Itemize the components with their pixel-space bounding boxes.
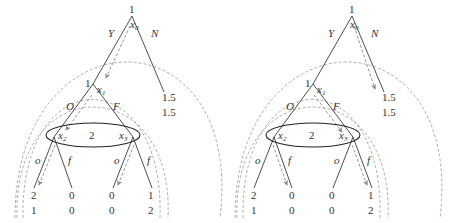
- leaf-4-p1: 1: [368, 189, 374, 201]
- action-x2-f-label: f: [288, 154, 293, 166]
- leaf-1-p2: 1: [31, 204, 37, 216]
- node-x1-label: x1: [96, 83, 105, 97]
- node-x2-label: x2: [277, 129, 287, 143]
- action-x3-o-label: o: [114, 154, 120, 166]
- action-N-label: N: [370, 27, 379, 39]
- leaf-2-p1: 0: [289, 189, 295, 201]
- leaf-1-p1: 2: [251, 189, 257, 201]
- leaf-3-p2: 0: [329, 204, 335, 216]
- action-O-label: O: [66, 100, 74, 112]
- leaf-3-p1: 0: [329, 189, 335, 201]
- action-x2-o-label: o: [35, 154, 41, 166]
- action-x3-o-label: o: [334, 154, 340, 166]
- n-payoff-p1: 1.5: [382, 91, 396, 103]
- action-x3-f-label: f: [367, 154, 372, 166]
- node-x0-label: x0: [129, 18, 139, 32]
- leaf-1-p1: 2: [31, 189, 37, 201]
- action-N-label: N: [150, 27, 159, 39]
- n-payoff-p2: 1.5: [162, 106, 176, 118]
- leaf-2-p2: 0: [289, 204, 295, 216]
- root-player-label: 1: [129, 3, 135, 15]
- left-tree: 1 x0 Y N 1.5 1.5 1 x1 O F x2 2 x3 o f o …: [15, 3, 222, 218]
- node-x0-label: x0: [349, 18, 359, 32]
- leaf-1-p2: 1: [251, 204, 257, 216]
- strategy-arrow-x2-f: [273, 145, 287, 185]
- action-x2-o-label: o: [255, 154, 261, 166]
- leaf-3-p2: 0: [109, 204, 115, 216]
- action-O-label: O: [286, 100, 294, 112]
- leaf-2-p2: 0: [69, 204, 75, 216]
- action-x3-f-label: f: [147, 154, 152, 166]
- subgame-arc-inner-a: [243, 100, 380, 219]
- game-tree-diagram: 1 x0 Y N 1.5 1.5 1 x1 O F x2 2 x3 o f o …: [0, 0, 457, 223]
- n-payoff-p1: 1.5: [162, 91, 176, 103]
- strategy-arrow-x3-f: [352, 145, 367, 185]
- action-x2-f-label: f: [68, 154, 73, 166]
- root-player-label: 1: [349, 3, 355, 15]
- node-x3-label: x3: [118, 129, 128, 143]
- infoset-player-label: 2: [89, 129, 95, 141]
- n-payoff-p2: 1.5: [382, 106, 396, 118]
- action-F-label: F: [332, 100, 340, 112]
- node-x3-label: x3: [338, 129, 348, 143]
- action-Y-label: Y: [108, 27, 116, 39]
- action-Y-label: Y: [328, 27, 336, 39]
- leaf-4-p2: 2: [368, 204, 374, 216]
- strategy-arrow-x3-o: [118, 145, 134, 185]
- node-x1-label: x1: [316, 83, 325, 97]
- strategy-arrow-x2-o: [39, 145, 55, 185]
- subgame-arc-inner-a: [23, 100, 160, 219]
- infoset-player-label: 2: [309, 129, 315, 141]
- node-x2-label: x2: [57, 129, 67, 143]
- x1-player-label: 1: [305, 77, 311, 89]
- leaf-2-p1: 0: [69, 189, 75, 201]
- right-tree: 1 x0 Y N 1.5 1.5 1 x1 O F x2 2 x3 o f o …: [235, 3, 442, 218]
- leaf-4-p1: 1: [148, 189, 154, 201]
- leaf-3-p1: 0: [109, 189, 115, 201]
- x1-player-label: 1: [85, 77, 91, 89]
- action-F-label: F: [112, 100, 120, 112]
- leaf-4-p2: 2: [148, 204, 154, 216]
